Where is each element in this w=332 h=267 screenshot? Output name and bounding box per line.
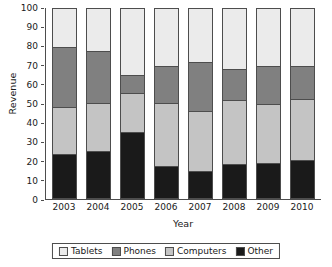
bar-segment-other[interactable] [87,151,110,198]
bar-segment-tablets[interactable] [87,9,110,51]
y-axis: 0102030405060708090100 [14,8,44,200]
y-axis-tick-mark [41,200,44,201]
bar-segment-tablets[interactable] [155,9,178,66]
bar-segment-phones[interactable] [87,51,110,104]
bar-column[interactable] [290,8,315,199]
y-axis-tick-mark [41,65,44,66]
x-axis-tick-label: 2008 [222,202,247,216]
x-axis-tick-label: 2004 [86,202,111,216]
y-axis-tick-label: 90 [27,22,41,32]
legend-item-tablets[interactable]: Tablets [59,246,103,256]
y-axis-tick: 30 [27,137,44,147]
bar-segment-phones[interactable] [223,69,246,100]
y-axis-tick-mark [41,123,44,124]
bar-column[interactable] [154,8,179,199]
bar-stack [120,8,145,199]
legend-item-other[interactable]: Other [235,246,273,256]
y-axis-tick-mark [41,161,44,162]
y-axis-tick-mark [41,27,44,28]
x-axis-tick-label: 2010 [290,202,315,216]
legend-item-phones[interactable]: Phones [111,246,156,256]
y-axis-tick-label: 40 [27,118,41,128]
bar-segment-other[interactable] [223,164,246,198]
bar-column[interactable] [86,8,111,199]
bar-column[interactable] [52,8,77,199]
bar-segment-phones[interactable] [189,62,212,111]
stacked-bar-chart: Revenue 0102030405060708090100 200320042… [0,0,332,267]
legend-label: Other [247,246,273,256]
bar-segment-computers[interactable] [189,111,212,171]
bar-segment-phones[interactable] [53,47,76,107]
bar-column[interactable] [188,8,213,199]
bar-segment-other[interactable] [189,171,212,198]
y-axis-tick-label: 100 [21,3,41,13]
bar-segment-computers[interactable] [291,99,314,160]
x-axis-tick-label: 2006 [154,202,179,216]
bar-segment-computers[interactable] [53,107,76,153]
bar-segment-computers[interactable] [121,93,144,132]
x-axis-tick-label: 2003 [52,202,77,216]
bar-segment-tablets[interactable] [257,9,280,66]
bar-stack [290,8,315,199]
y-axis-tick: 80 [27,41,44,51]
bar-segment-phones[interactable] [291,66,314,99]
bar-segment-other[interactable] [155,166,178,198]
y-axis-tick-label: 20 [27,157,41,167]
chart-legend: TabletsPhonesComputersOther [52,243,280,259]
y-axis-tick-label: 70 [27,61,41,71]
y-axis-tick-label: 30 [27,137,41,147]
y-axis-tick: 0 [32,195,44,205]
bar-segment-phones[interactable] [121,75,144,93]
y-axis-tick-mark [41,84,44,85]
x-axis-tick-label: 2007 [188,202,213,216]
y-axis-tick-mark [41,142,44,143]
bar-column[interactable] [222,8,247,199]
y-axis-tick: 100 [21,3,44,13]
legend-label: Phones [123,246,156,256]
x-axis-tick-labels: 20032004200520062007200820092010 [45,202,321,216]
y-axis-tick-label: 50 [27,99,41,109]
y-axis-tick: 90 [27,22,44,32]
y-axis-tick: 20 [27,157,44,167]
legend-swatch-icon [165,247,174,256]
y-axis-tick-mark [41,8,44,9]
y-axis-tick: 40 [27,118,44,128]
bar-group [46,8,321,199]
bar-column[interactable] [256,8,281,199]
y-axis-tick-label: 80 [27,41,41,51]
y-axis-tick-label: 0 [32,195,41,205]
y-axis-tick-label: 10 [27,176,41,186]
plot-area [45,8,321,200]
bar-segment-other[interactable] [121,132,144,198]
bar-stack [86,8,111,199]
legend-item-computers[interactable]: Computers [165,246,226,256]
legend-swatch-icon [111,247,120,256]
bar-segment-tablets[interactable] [53,9,76,47]
legend-swatch-icon [235,247,244,256]
y-axis-tick: 70 [27,61,44,71]
bar-segment-computers[interactable] [87,103,110,150]
bar-segment-other[interactable] [53,154,76,198]
y-axis-tick: 10 [27,176,44,186]
bar-segment-tablets[interactable] [189,9,212,62]
bar-segment-phones[interactable] [257,66,280,105]
bar-segment-tablets[interactable] [121,9,144,75]
bar-segment-computers[interactable] [155,103,178,165]
bar-segment-tablets[interactable] [223,9,246,69]
y-axis-tick-label: 60 [27,80,41,90]
bar-stack [222,8,247,199]
bar-stack [256,8,281,199]
bar-segment-computers[interactable] [223,100,246,164]
bar-stack [52,8,77,199]
x-axis-tick-label: 2005 [120,202,145,216]
bar-segment-other[interactable] [257,163,280,198]
legend-label: Tablets [71,246,103,256]
bar-segment-tablets[interactable] [291,9,314,66]
bar-column[interactable] [120,8,145,199]
bar-segment-phones[interactable] [155,66,178,104]
y-axis-tick-mark [41,46,44,47]
y-axis-tick-mark [41,104,44,105]
bar-segment-computers[interactable] [257,104,280,163]
bar-segment-other[interactable] [291,160,314,198]
legend-label: Computers [177,246,226,256]
